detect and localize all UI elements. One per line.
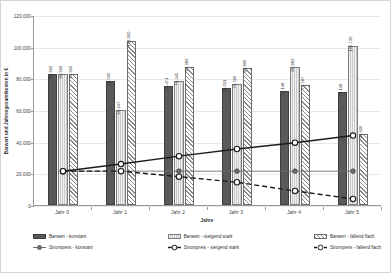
legend-line-marker: [33, 244, 46, 251]
legend-line-label: Strompreis - steigend stark: [184, 245, 239, 250]
line-data-point[interactable]: [176, 153, 181, 158]
legend-item-line[interactable]: Strompreis - steigend stark: [168, 243, 239, 251]
y-axis-tick-label: 100.000: [14, 45, 31, 50]
legend-bar-swatch: [33, 234, 46, 239]
x-axis-tick: [149, 207, 150, 210]
legend-item-bar[interactable]: Barwert - steigend stark: [168, 232, 239, 240]
legend-item-bar[interactable]: Barwert - fallend flach: [314, 232, 381, 240]
line-data-point[interactable]: [176, 174, 181, 179]
line-data-point[interactable]: [235, 169, 240, 174]
y-axis-tick-label: 120.000: [14, 14, 31, 19]
line-data-point[interactable]: [60, 168, 65, 173]
x-axis-tick: [381, 207, 382, 210]
x-axis-tick: [265, 207, 266, 210]
line-data-point[interactable]: [350, 133, 355, 138]
line-data-point[interactable]: [293, 169, 298, 174]
x-axis-tick: [91, 207, 92, 210]
line-data-point[interactable]: [351, 169, 356, 174]
legend-bar-label: Barwert - konstant: [49, 234, 86, 239]
line-data-point[interactable]: [292, 140, 297, 145]
legend-line-marker: [314, 244, 327, 251]
legend-column: Barwert - fallend flachStrompreis - fall…: [314, 232, 381, 256]
y-axis-tick-label: 80.000: [16, 77, 31, 82]
legend-line-label: Strompreis - fallend flach: [330, 245, 381, 250]
legend-line-marker: [168, 244, 181, 251]
chart-legend: Barwert - konstantStrompreis - konstantB…: [33, 232, 381, 256]
y-axis-tick-label: 20.000: [16, 172, 31, 177]
legend-bar-label: Barwert - fallend flach: [330, 234, 375, 239]
x-axis-tick: [323, 207, 324, 210]
legend-line-label: Strompreis - konstant: [49, 245, 93, 250]
line-data-point[interactable]: [350, 196, 355, 201]
line-series-path: [63, 171, 353, 199]
y-axis-tick-labels: 020.00040.00060.00080.000100.000120.000: [0, 16, 31, 206]
x-axis-title: Jahre: [33, 218, 381, 223]
legend-bar-swatch: [168, 234, 181, 239]
line-data-point[interactable]: [118, 168, 123, 173]
legend-column: Barwert - konstantStrompreis - konstant: [33, 232, 93, 256]
line-data-point[interactable]: [177, 169, 182, 174]
legend-item-line[interactable]: Strompreis - fallend flach: [314, 243, 381, 251]
line-data-point[interactable]: [292, 188, 297, 193]
y-axis-tick-label: 40.000: [16, 140, 31, 145]
legend-column: Barwert - steigend starkStrompreis - ste…: [168, 232, 239, 256]
line-data-point[interactable]: [234, 180, 239, 185]
legend-bar-label: Barwert - steigend stark: [184, 234, 233, 239]
chart-figure: Barwert und Jahresgesamtkosten in € 020.…: [0, 0, 391, 273]
legend-item-bar[interactable]: Barwert - konstant: [33, 232, 93, 240]
line-data-point[interactable]: [118, 161, 123, 166]
legend-bar-swatch: [314, 234, 327, 239]
plot-area: 82.91682.91682.91678.50560.047103.90075.…: [33, 16, 381, 206]
legend-item-line[interactable]: Strompreis - konstant: [33, 243, 93, 251]
line-series-path: [63, 136, 353, 172]
line-series-layer: [34, 16, 382, 206]
line-data-point[interactable]: [234, 146, 239, 151]
x-axis-tick: [207, 207, 208, 210]
y-axis-tick-label: 60.000: [16, 109, 31, 114]
